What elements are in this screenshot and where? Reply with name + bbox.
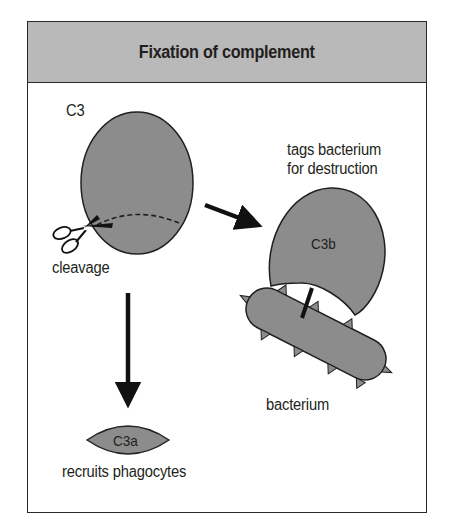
c3-label: C3	[66, 101, 84, 120]
cleavage-label: cleavage	[52, 258, 109, 277]
c3b-caption-line2: for destruction	[287, 159, 378, 178]
c3a-label: C3a	[113, 432, 138, 449]
c3b-label: C3b	[311, 235, 336, 252]
c3-molecule	[81, 112, 193, 254]
c3a-caption: recruits phagocytes	[62, 462, 186, 481]
c3b-caption-line1: tags bacterium	[287, 140, 381, 159]
bacterium	[227, 269, 406, 400]
bacterium-label: bacterium	[266, 395, 329, 414]
arrow-to-c3b	[205, 205, 250, 222]
